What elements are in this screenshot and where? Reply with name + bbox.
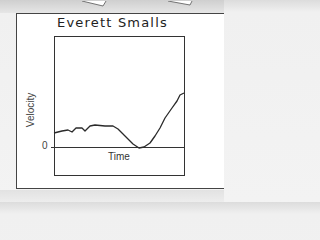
y-axis-label: Velocity [25,93,36,127]
y-tick-zero: 0 [42,140,48,151]
x-axis-label: Time [108,151,130,162]
velocity-series-line [54,93,184,148]
bottom-background-strip [0,190,224,202]
